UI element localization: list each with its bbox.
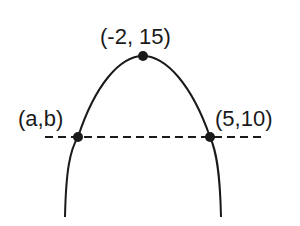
- right-point-label: (5,10): [215, 108, 272, 130]
- vertex-point: [138, 51, 148, 61]
- vertex-label: (-2, 15): [100, 26, 171, 48]
- left-point: [73, 132, 83, 142]
- right-point: [205, 132, 215, 142]
- left-point-label: (a,b): [18, 108, 63, 130]
